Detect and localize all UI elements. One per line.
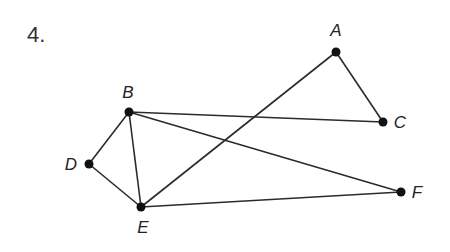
node-label-b: B [122, 83, 133, 102]
graph-nodes [85, 48, 406, 212]
graph-edges [89, 52, 401, 207]
node-f [397, 188, 406, 197]
edge-b-f [129, 112, 401, 192]
graph-labels: ABCDEF [65, 21, 424, 237]
edge-b-d [89, 112, 129, 164]
node-b [125, 108, 134, 117]
node-label-e: E [137, 218, 149, 237]
node-c [379, 118, 388, 127]
node-d [85, 160, 94, 169]
graph-diagram: ABCDEF [0, 0, 450, 252]
node-e [137, 203, 146, 212]
edge-d-e [89, 164, 141, 207]
edge-b-e [129, 112, 141, 207]
node-label-a: A [329, 21, 341, 40]
node-label-d: D [65, 155, 77, 174]
node-a [332, 48, 341, 57]
edge-b-c [129, 112, 383, 122]
node-label-c: C [394, 113, 407, 132]
edge-a-e [141, 52, 336, 207]
edge-a-c [336, 52, 383, 122]
edge-e-f [141, 192, 401, 207]
node-label-f: F [412, 183, 424, 202]
